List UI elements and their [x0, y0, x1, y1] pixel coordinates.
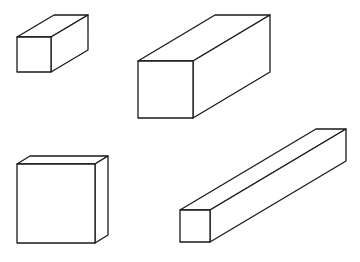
- box-small-cube: [17, 15, 88, 72]
- box-long-prism: [138, 15, 270, 118]
- front-face: [17, 37, 51, 72]
- top-face: [17, 156, 108, 164]
- front-face: [180, 210, 210, 242]
- box-long-bar: [180, 129, 346, 242]
- front-face: [138, 61, 193, 118]
- front-face: [17, 164, 95, 243]
- box-thin-slab: [17, 156, 108, 243]
- box-diagram: [0, 0, 360, 262]
- side-face: [95, 156, 108, 243]
